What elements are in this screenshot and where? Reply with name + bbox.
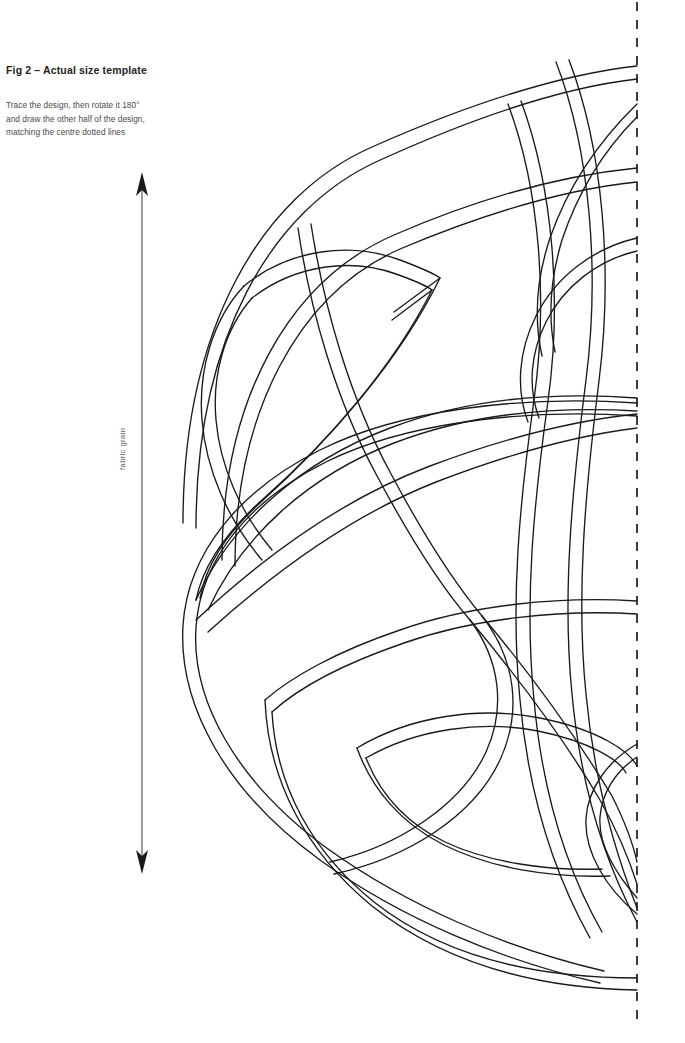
band-central-return-loop [330, 616, 513, 874]
fabric-grain-arrow [136, 172, 148, 874]
band-upper-inner-dome [222, 168, 637, 566]
template-page: Fig 2 – Actual size template Trace the d… [0, 0, 685, 1043]
band-central-ellipse [196, 396, 637, 610]
band-outer-dome [183, 66, 637, 528]
band-right-vertical-strand-2 [556, 60, 637, 922]
band-lower-leaf-return [357, 748, 610, 876]
knotwork-bands [183, 60, 637, 990]
band-right-vertical-strand-1 [508, 101, 602, 938]
band-lower-right-loop [586, 744, 637, 914]
band-upper-right-crossing [537, 104, 637, 356]
band-lower-right-crossing [470, 616, 637, 884]
knotwork-artwork [0, 0, 685, 1043]
band-upper-diagonal-strand [298, 224, 482, 620]
